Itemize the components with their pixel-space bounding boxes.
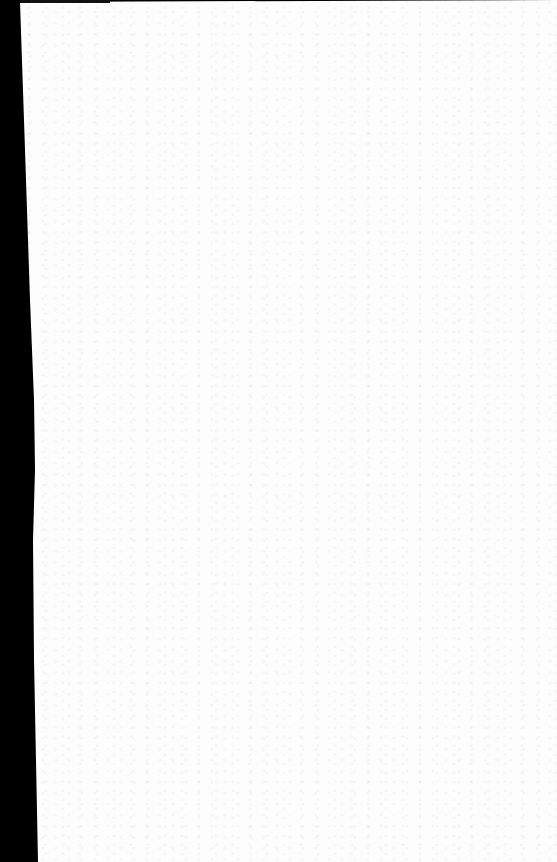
blank-page [0, 0, 557, 862]
scan-border-top [20, 0, 110, 3]
scanned-document [0, 0, 557, 862]
